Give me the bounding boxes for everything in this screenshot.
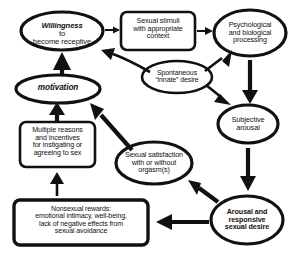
edge-arousal-desire-to-nonsexual-rewards xyxy=(156,214,209,230)
willingness-line2: become receptive xyxy=(22,38,102,46)
motivation-line1: motivation xyxy=(18,84,98,93)
node-processing-label: Psychological and biological processing xyxy=(215,21,285,44)
nonsexual-line4: sexual avoidance xyxy=(16,227,146,234)
nonsexual-line1: Nonsexual rewards: xyxy=(16,205,146,212)
node-multiple-reasons-label: Multiple reasons and incentives for inst… xyxy=(21,126,94,157)
edge-spontaneous-to-subjective-arousal xyxy=(206,85,231,105)
node-sexual-satisfaction-label: Sexual satisfaction with or without orga… xyxy=(114,151,194,174)
willingness-emphasis: Willingness xyxy=(22,22,102,30)
edge-arousal-desire-to-sexual-satisfaction xyxy=(188,180,218,202)
edge-willingness-to-stimuli xyxy=(105,27,120,34)
node-willingness-label: Willingness to become receptive xyxy=(22,22,102,46)
satisfaction-line3: orgasm(s) xyxy=(114,166,194,174)
stimuli-line3: context xyxy=(123,32,193,40)
node-subjective-arousal-label: Subjective arousal xyxy=(218,116,278,132)
node-spontaneous-desire-label: Spontaneous “innate” desire xyxy=(145,69,209,84)
node-arousal-desire-label: Arousal and responsive sexual desire xyxy=(212,208,282,231)
edge-processing-to-subjective-arousal xyxy=(242,60,258,104)
node-sexual-stimuli-label: Sexual stimuli with appropriate context xyxy=(123,17,193,40)
arousal-line3: sexual desire xyxy=(212,223,282,231)
edge-nonsexual-rewards-to-multiple-reasons xyxy=(50,172,64,196)
node-nonsexual-rewards-label: Nonsexual rewards: emotional intimacy, w… xyxy=(16,205,146,235)
sexual-response-cycle-diagram: Willingness to become receptive Sexual s… xyxy=(0,0,300,267)
edge-spontaneous-to-processing xyxy=(205,50,232,71)
edge-subjective-arousal-to-arousal-desire xyxy=(240,148,256,191)
processing-line3: processing xyxy=(215,36,285,44)
node-motivation-label: motivation xyxy=(18,84,98,93)
edge-motivation-to-willingness xyxy=(53,52,71,74)
edge-multiple-reasons-to-motivation xyxy=(49,102,65,121)
spontaneous-line2: “innate” desire xyxy=(145,76,209,83)
nonsexual-line3: lack of negative effects from xyxy=(16,220,146,227)
edge-stimuli-to-processing xyxy=(197,27,213,35)
edge-spontaneous-to-willingness xyxy=(101,48,150,72)
nonsexual-line2: emotional intimacy, well-being, xyxy=(16,212,146,219)
spontaneous-line1: Spontaneous xyxy=(145,69,209,76)
multi-line4: agreeing to sex xyxy=(21,149,94,157)
subjective-line2: arousal xyxy=(218,124,278,132)
